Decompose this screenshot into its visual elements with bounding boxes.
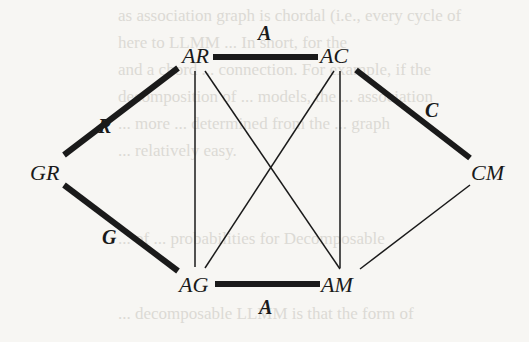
node-AC: AC xyxy=(318,43,348,68)
edge-CM-AM xyxy=(360,185,470,269)
node-GR: GR xyxy=(30,160,60,185)
edge-label-A-bottom: A xyxy=(257,296,272,318)
edge-GR-AG xyxy=(64,185,178,271)
edge-label-G: G xyxy=(102,226,117,248)
edge-AR-GR xyxy=(64,68,178,155)
node-CM: CM xyxy=(471,160,506,185)
edge-AR-AM xyxy=(205,71,340,269)
edge-AC-CM xyxy=(356,70,470,158)
node-AR: AR xyxy=(180,43,209,68)
association-graph: AR AC GR CM AG AM A R G C A xyxy=(0,0,529,342)
thick-edges xyxy=(64,57,470,284)
edge-label-R: R xyxy=(97,115,111,137)
edge-label-A-top: A xyxy=(256,22,271,44)
node-AM: AM xyxy=(319,272,354,297)
node-AG: AG xyxy=(177,272,208,297)
edge-label-C: C xyxy=(425,99,439,121)
